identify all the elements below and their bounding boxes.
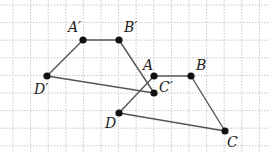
point-b-prime <box>115 36 122 43</box>
label-a: A <box>143 58 153 72</box>
label-b: B <box>196 58 206 72</box>
quadrilateral-diagram: A′ B′ C′ D′ A B C D <box>0 0 269 152</box>
label-a-prime: A′ <box>68 20 81 34</box>
label-c: C <box>227 135 238 149</box>
label-d: D <box>105 116 116 130</box>
point-a-prime <box>79 36 86 43</box>
label-b-prime: B′ <box>124 20 137 34</box>
point-b <box>187 72 194 79</box>
label-d-prime: D′ <box>34 82 48 96</box>
label-c-prime: C′ <box>159 80 173 94</box>
point-a <box>150 72 157 79</box>
point-d <box>115 109 122 116</box>
segment <box>191 76 225 131</box>
point-d-prime <box>43 72 50 79</box>
point-c-prime <box>150 89 157 96</box>
